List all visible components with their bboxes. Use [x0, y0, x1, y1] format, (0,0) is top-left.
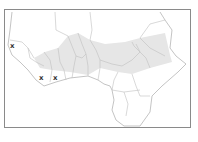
- west-africa-map: [0, 0, 198, 142]
- marker-1: x: [10, 43, 15, 50]
- shaded-region: [34, 33, 172, 75]
- marker-3: x: [53, 75, 58, 82]
- marker-2: x: [39, 75, 44, 82]
